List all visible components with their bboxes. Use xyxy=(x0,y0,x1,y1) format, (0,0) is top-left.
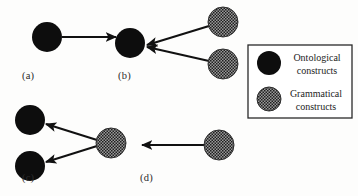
panel-d xyxy=(142,130,234,160)
panel-label-b: (b) xyxy=(118,70,131,81)
panel-c xyxy=(15,105,126,181)
legend-label-ontological-line1: Ontological xyxy=(286,52,348,65)
panel-b-arrow-upper-to-ontological xyxy=(147,26,209,45)
panel-label-c: (c) xyxy=(22,172,34,183)
legend-swatch-grammatical xyxy=(257,87,281,111)
panel-label-a: (a) xyxy=(22,70,34,81)
panel-c-grammatical-node xyxy=(96,128,126,158)
legend-label-grammatical: Grammatical constructs xyxy=(283,88,349,113)
legend-label-grammatical-line2: constructs xyxy=(283,101,349,114)
panel-b-ontological-node xyxy=(115,28,145,58)
panel-b-grammatical-node-lower xyxy=(208,49,238,79)
panel-a-ontological-node xyxy=(32,22,62,52)
panel-c-arrow-to-upper-ontological xyxy=(46,124,97,140)
panel-b-arrow-lower-to-ontological xyxy=(147,47,209,61)
figure-container: (a) (b) (c) (d) Ontological constructs G… xyxy=(0,0,358,196)
panel-c-ontological-node-upper xyxy=(15,105,45,135)
panel-d-grammatical-node xyxy=(204,130,234,160)
legend-label-ontological: Ontological constructs xyxy=(286,52,348,77)
panel-a xyxy=(32,22,116,52)
panel-label-d: (d) xyxy=(140,172,153,183)
legend-label-ontological-line2: constructs xyxy=(286,65,348,78)
panel-c-arrow-to-lower-ontological xyxy=(46,146,97,162)
panel-b-grammatical-node-upper xyxy=(208,7,238,37)
legend-label-grammatical-line1: Grammatical xyxy=(283,88,349,101)
panel-b xyxy=(115,7,238,79)
legend-swatch-ontological xyxy=(257,51,281,75)
